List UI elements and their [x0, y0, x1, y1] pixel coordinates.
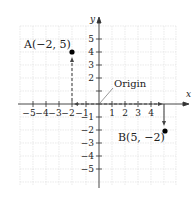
y-tick-label: −5: [81, 164, 95, 174]
x-tick-label: 2: [122, 108, 128, 118]
x-tick-label: −2: [61, 108, 74, 118]
point-a-label: A(−2, 5): [23, 38, 71, 51]
origin-leader-line: [100, 88, 113, 103]
coordinate-plane: −5 −4 −3 −2 −1 1 2 3 4 5 4 3 2 −1 −2 −3 …: [0, 0, 196, 197]
x-tick-label: −5: [22, 108, 36, 118]
x-tick-label: 1: [109, 108, 115, 118]
point-b-label: B(5, −2): [118, 131, 165, 144]
origin-label: Origin: [114, 78, 147, 89]
y-tick-label: −3: [81, 138, 95, 148]
y-tick-label: 4: [88, 47, 94, 57]
y-axis-label: y: [89, 14, 96, 24]
y-tick-label: −2: [81, 125, 94, 135]
x-tick-label: −3: [48, 108, 62, 118]
x-tick-label: 4: [148, 108, 154, 118]
y-tick-label: −1: [81, 112, 94, 122]
y-tick-label: −4: [81, 151, 95, 161]
path-to-a: [70, 57, 99, 106]
y-tick-label: 5: [88, 34, 94, 44]
y-tick-label: 2: [88, 73, 94, 83]
x-tick-label: 3: [135, 108, 141, 118]
x-axis-label: x: [186, 89, 191, 99]
y-tick-label: 3: [88, 60, 94, 70]
x-tick-label: −4: [35, 108, 49, 118]
